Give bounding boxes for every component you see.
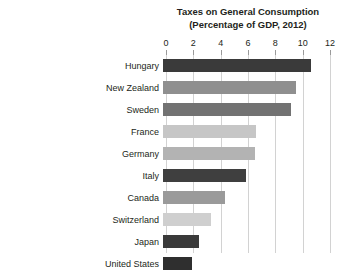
category-label: Sweden (0, 105, 163, 115)
chart-title: Taxes on General Consumption (166, 6, 330, 19)
bar (163, 213, 211, 226)
bar-track (163, 187, 357, 209)
category-label: Hungary (0, 61, 163, 71)
bar (163, 147, 255, 160)
bar (163, 81, 296, 94)
chart-row: Switzerland (0, 209, 357, 231)
category-label: Germany (0, 149, 163, 159)
bar-track (163, 77, 357, 99)
chart-row: France (0, 121, 357, 143)
x-axis-tick-labels: 024681012 (0, 38, 357, 50)
chart-row: Japan (0, 231, 357, 253)
chart-row: Hungary (0, 55, 357, 77)
chart-row: New Zealand (0, 77, 357, 99)
x-axis-tick-label: 8 (273, 38, 278, 48)
bar (163, 191, 225, 204)
bar-track (163, 99, 357, 121)
bar-track (163, 231, 357, 253)
chart-title-block: Taxes on General Consumption (Percentage… (166, 6, 330, 31)
x-axis-tick-label: 12 (325, 38, 335, 48)
chart-subtitle: (Percentage of GDP, 2012) (166, 19, 330, 32)
bar-track (163, 143, 357, 165)
category-label: Italy (0, 171, 163, 181)
x-axis-tick-label: 4 (218, 38, 223, 48)
chart-row: Italy (0, 165, 357, 187)
category-label: Switzerland (0, 215, 163, 225)
bar (163, 125, 256, 138)
bar-track (163, 121, 357, 143)
bar-track (163, 253, 357, 275)
category-label: United States (0, 259, 163, 269)
plot-area: HungaryNew ZealandSwedenFranceGermanyIta… (0, 55, 357, 265)
bar-track (163, 209, 357, 231)
x-axis-tick-label: 0 (163, 38, 168, 48)
bar (163, 103, 291, 116)
chart-row: United States (0, 253, 357, 275)
bar (163, 169, 246, 182)
x-axis-tick-label: 6 (245, 38, 250, 48)
category-label: New Zealand (0, 83, 163, 93)
chart-container: Taxes on General Consumption (Percentage… (0, 0, 357, 279)
chart-row: Canada (0, 187, 357, 209)
bar (163, 59, 311, 72)
bar (163, 235, 199, 248)
chart-row: Sweden (0, 99, 357, 121)
category-label: Japan (0, 237, 163, 247)
category-label: France (0, 127, 163, 137)
bar-track (163, 165, 357, 187)
bar-track (163, 55, 357, 77)
x-axis-tick-label: 2 (191, 38, 196, 48)
bar (163, 257, 192, 270)
x-axis-tick-label: 10 (298, 38, 308, 48)
chart-row: Germany (0, 143, 357, 165)
category-label: Canada (0, 193, 163, 203)
